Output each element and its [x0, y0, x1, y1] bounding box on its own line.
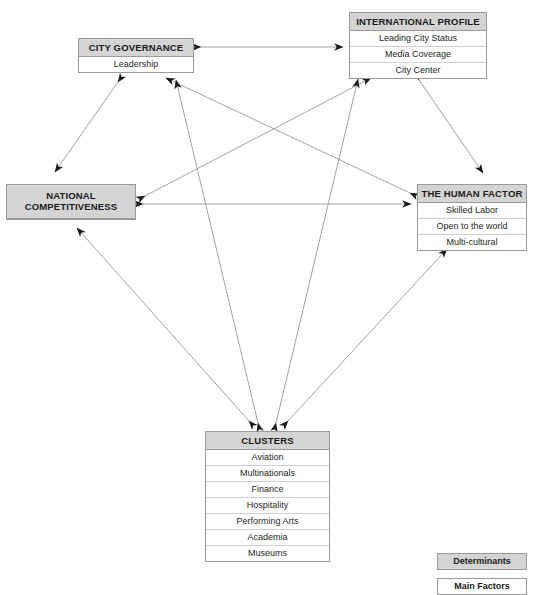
- edge-international-profile-human-factor: [419, 80, 483, 173]
- node-clusters-item-2: Finance: [206, 482, 329, 498]
- legend: Determinants Main Factors: [437, 553, 527, 595]
- node-the-human-factor[interactable]: THE HUMAN FACTOR Skilled Labor Open to t…: [417, 184, 527, 251]
- node-city-governance-header: CITY GOVERNANCE: [79, 39, 193, 57]
- node-the-human-factor-header: THE HUMAN FACTOR: [418, 185, 526, 203]
- node-national-competitiveness-header-line1: NATIONAL: [46, 190, 96, 201]
- node-clusters-item-1: Multinationals: [206, 466, 329, 482]
- legend-item-determinants: Determinants: [437, 553, 527, 570]
- legend-item-main-factors: Main Factors: [437, 578, 527, 595]
- node-national-competitiveness[interactable]: NATIONAL COMPETITIVENESS: [6, 184, 136, 220]
- node-international-profile-header: INTERNATIONAL PROFILE: [350, 13, 486, 31]
- node-international-profile[interactable]: INTERNATIONAL PROFILE Leading City Statu…: [349, 12, 487, 79]
- edge-national-competitiveness-international-profile: [145, 78, 371, 196]
- node-the-human-factor-item-0: Skilled Labor: [418, 203, 526, 219]
- node-city-governance-item-0: Leadership: [79, 57, 193, 72]
- edge-human-factor-city-governance: [166, 78, 410, 193]
- node-clusters-item-4: Performing Arts: [206, 514, 329, 530]
- edge-city-governance-national-competitiveness: [55, 82, 118, 172]
- edge-clusters-human-factor: [288, 249, 447, 421]
- node-clusters-item-6: Museums: [206, 546, 329, 561]
- node-clusters-header: CLUSTERS: [206, 432, 329, 450]
- node-clusters-item-5: Academia: [206, 530, 329, 546]
- node-clusters[interactable]: CLUSTERS Aviation Multinationals Finance…: [205, 431, 330, 562]
- node-the-human-factor-item-1: Open to the world: [418, 219, 526, 235]
- node-the-human-factor-item-2: Multi-cultural: [418, 235, 526, 250]
- edge-clusters-city-governance: [176, 80, 258, 423]
- node-clusters-item-3: Hospitality: [206, 498, 329, 514]
- edge-clusters-international-profile: [276, 79, 358, 423]
- node-national-competitiveness-header-line2: COMPETITIVENESS: [25, 201, 118, 212]
- node-clusters-item-0: Aviation: [206, 450, 329, 466]
- node-city-governance[interactable]: CITY GOVERNANCE Leadership: [78, 38, 194, 73]
- node-international-profile-item-2: City Center: [350, 63, 486, 78]
- node-international-profile-item-1: Media Coverage: [350, 47, 486, 63]
- node-national-competitiveness-header: NATIONAL COMPETITIVENESS: [7, 185, 135, 219]
- edge-clusters-national-competitiveness: [77, 228, 249, 421]
- node-international-profile-item-0: Leading City Status: [350, 31, 486, 47]
